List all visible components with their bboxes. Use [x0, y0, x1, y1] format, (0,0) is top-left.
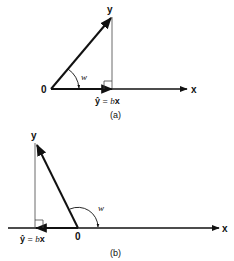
caption-b: (b)	[110, 248, 121, 258]
panel-a: y x 0 w ŷ = bx (a)	[41, 4, 197, 120]
angle-arc	[70, 207, 98, 227]
caption-a: (a)	[110, 110, 121, 120]
vector-projection-diagram: y x 0 w ŷ = bx (a) y x 0 w ŷ = bx (b)	[0, 0, 234, 261]
panel-b: y x 0 w ŷ = bx (b)	[8, 130, 228, 258]
origin-label: 0	[41, 84, 47, 95]
origin-label: 0	[75, 231, 81, 242]
projection-label: ŷ = bx	[95, 96, 120, 106]
x-label: x	[222, 223, 228, 234]
projection-label: ŷ = bx	[20, 234, 45, 244]
angle-label: w	[98, 203, 104, 213]
x-label: x	[191, 84, 197, 95]
angle-label: w	[81, 72, 87, 82]
y-label: y	[31, 130, 37, 141]
right-angle-marker	[35, 220, 43, 228]
y-label: y	[107, 4, 113, 15]
angle-arc	[68, 69, 79, 88]
y-vector	[37, 145, 78, 228]
right-angle-marker	[104, 81, 112, 89]
